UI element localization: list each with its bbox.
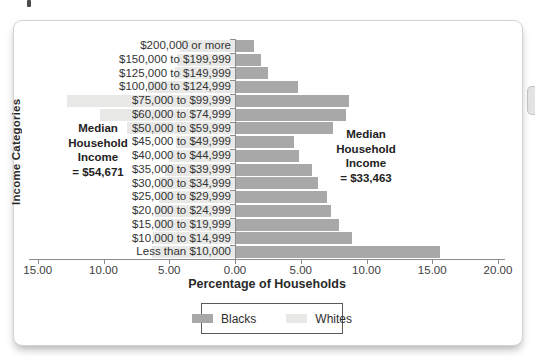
category-label-13: $20,000 to $24,999 [61,204,231,218]
x-axis-tick-label-2: 10.00 [82,264,126,276]
y-axis-tick [230,218,235,219]
bar-blacks-10 [236,164,312,176]
legend-swatch-whites [286,314,307,323]
x-axis-title: Percentage of Households [147,277,387,291]
median-right-line-3: Income [311,156,421,171]
y-axis-tick [230,149,235,150]
median-right-line-4: = $33,463 [311,171,421,186]
legend-item-whites: Whites [286,312,352,326]
legend-label-blacks: Blacks [221,312,256,326]
x-axis-tick-label-1: 15.00 [16,264,60,276]
category-label-16: Less than $10,000 [61,245,231,259]
y-axis-tick [230,67,235,68]
bar-blacks-6 [236,109,346,121]
median-annotation-blacks: MedianHouseholdIncome= $33,463 [311,127,421,185]
bar-blacks-1 [236,40,254,52]
bar-blacks-7 [236,122,333,134]
bar-blacks-13 [236,205,331,217]
category-label-10: $35,000 to $39,999 [61,163,231,177]
y-axis-tick [230,177,235,178]
category-label-5: $75,000 to $99,999 [61,94,231,108]
category-label-12: $25,000 to $29,999 [61,190,231,204]
category-label-8: $45,000 to $49,999 [61,135,231,149]
y-axis-tick [230,232,235,233]
bar-blacks-12 [236,191,327,203]
category-label-3: $125,000 to $149,999 [61,67,231,81]
legend-swatch-blacks [192,314,213,323]
y-axis-tick [230,245,235,246]
y-axis-title: Income Categories [10,59,26,244]
x-axis-tick-label-8: 20.00 [476,264,520,276]
bar-blacks-15 [236,232,352,244]
category-label-11: $30,000 to $34,999 [61,177,231,191]
bar-blacks-4 [236,81,298,93]
x-axis-tick-label-5: 5.00 [279,264,323,276]
bar-blacks-11 [236,177,318,189]
category-label-7: $50,000 to $59,999 [61,122,231,136]
y-axis-tick [230,53,235,54]
bar-blacks-8 [236,136,294,148]
bar-blacks-3 [236,67,268,79]
median-right-line-2: Household [311,142,421,157]
category-label-14: $15,000 to $19,999 [61,218,231,232]
category-label-4: $100,000 to $124,999 [61,80,231,94]
y-axis-tick [230,190,235,191]
category-label-6: $60,000 to $74,999 [61,108,231,122]
y-axis-tick [230,80,235,81]
bar-blacks-16 [236,246,440,258]
x-axis-tick-label-3: 5.00 [147,264,191,276]
x-axis-line [29,259,505,260]
category-label-15: $10,000 to $14,999 [61,232,231,246]
x-axis-tick-label-7: 15.00 [410,264,454,276]
bar-blacks-5 [236,95,349,107]
legend-item-blacks: Blacks [192,312,256,326]
y-axis-tick [230,163,235,164]
y-axis-tick [230,39,235,40]
x-axis-tick-label-6: 10.00 [345,264,389,276]
y-axis-tick [230,122,235,123]
y-axis-tick [230,135,235,136]
category-label-9: $40,000 to $44,999 [61,149,231,163]
y-axis-tick [230,94,235,95]
category-label-2: $150,000 to $199,999 [61,53,231,67]
y-axis-tick [230,108,235,109]
legend: BlacksWhites [201,303,343,334]
x-axis-tick-label-4: 0.00 [213,264,257,276]
bar-blacks-9 [236,150,299,162]
bar-blacks-14 [236,219,339,231]
y-axis-tick [230,204,235,205]
bar-blacks-2 [236,54,261,66]
legend-label-whites: Whites [315,312,352,326]
income-distribution-chart: Income Categories Percentage of Househol… [1,1,535,357]
category-label-1: $200,000 or more [61,39,231,53]
chart-card: Income Categories Percentage of Househol… [13,20,523,346]
page: Income Categories Percentage of Househol… [0,0,535,357]
